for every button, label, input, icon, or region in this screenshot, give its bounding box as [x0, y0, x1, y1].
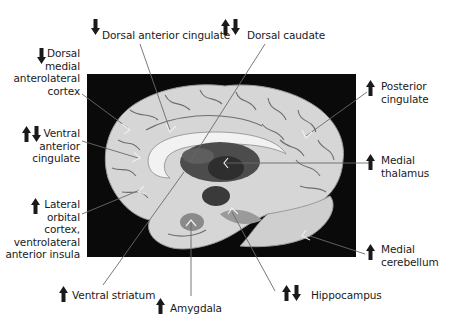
- label-dorsal-anterior-cingulate: Dorsal anterior cingulate: [102, 29, 230, 42]
- label-medial-thalamus: Medial thalamus: [381, 154, 429, 179]
- arrow-down-icon: [292, 285, 301, 301]
- arrow-group-dorsal-caudate: [221, 19, 240, 35]
- arrow-up-icon: [366, 154, 375, 170]
- label-ventral-anterior-cingulate: Ventral anterior cingulate: [32, 127, 80, 165]
- arrow-group-posterior-cingulate: [366, 80, 375, 96]
- label-dorsal-medial-anterolateral-cortex: Dorsal medial anterolateral cortex: [14, 47, 80, 97]
- arrow-up-icon: [22, 126, 31, 142]
- arrow-group-medial-cerebellum: [366, 244, 375, 260]
- arrow-group-dorsal-anterior-cingulate: [91, 19, 100, 35]
- brain-diagram: Dorsal anterior cingulate Dorsal caudate…: [0, 0, 453, 334]
- arrow-up-icon: [221, 19, 230, 35]
- arrow-up-icon: [156, 298, 165, 314]
- arrow-group-ventral-striatum: [59, 286, 68, 302]
- label-medial-cerebellum: Medial cerebellum: [381, 243, 439, 268]
- arrow-down-icon: [91, 19, 100, 35]
- arrow-group-hippocampus: [282, 285, 301, 301]
- arrow-up-icon: [59, 286, 68, 302]
- arrow-group-medial-thalamus: [366, 154, 375, 170]
- label-lateral-orbital-cortex: Lateral orbital cortex, ventrolateral an…: [5, 198, 80, 261]
- arrow-down-icon: [231, 19, 240, 35]
- label-amygdala: Amygdala: [170, 302, 222, 315]
- label-ventral-striatum: Ventral striatum: [72, 289, 155, 302]
- arrow-up-icon: [282, 285, 291, 301]
- brainstem-region: [202, 186, 230, 206]
- caudate-region: [182, 148, 214, 164]
- label-dorsal-caudate: Dorsal caudate: [247, 29, 325, 42]
- arrow-up-icon: [366, 80, 375, 96]
- arrow-up-icon: [366, 244, 375, 260]
- label-posterior-cingulate: Posterior cingulate: [381, 80, 429, 105]
- arrow-group-amygdala: [156, 298, 165, 314]
- label-hippocampus: Hippocampus: [311, 289, 382, 302]
